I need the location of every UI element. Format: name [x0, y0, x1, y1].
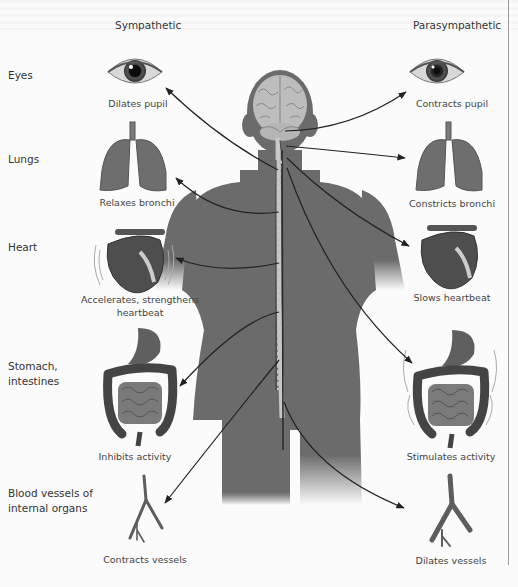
- eye-sympathetic: [108, 59, 162, 83]
- heart-parasympathetic: [421, 228, 477, 289]
- organ-label-vessels: Blood vessels of internal organs: [8, 486, 93, 516]
- effect-sympathetic-heart-line1: Accelerates, strengthens: [75, 293, 205, 306]
- organ-label-stomach: Stomach, intestines: [8, 359, 59, 389]
- effect-sympathetic-heart: Accelerates, strengthens heartbeat: [75, 293, 205, 319]
- organ-label-heart: Heart: [8, 240, 37, 255]
- effect-sympathetic-heart-line2: heartbeat: [75, 306, 205, 319]
- organ-label-lungs: Lungs: [8, 152, 39, 167]
- effect-parasympathetic-stomach: Stimulates activity: [393, 450, 509, 463]
- effect-parasympathetic-eyes: Contracts pupil: [397, 97, 507, 110]
- effect-parasympathetic-vessels: Dilates vessels: [398, 554, 504, 567]
- effect-parasympathetic-lungs: Constricts bronchi: [392, 197, 512, 210]
- vessel-parasympathetic: [432, 476, 470, 546]
- organ-label-eyes: Eyes: [8, 68, 33, 83]
- lungs-sympathetic: [100, 122, 166, 191]
- effect-sympathetic-stomach: Inhibits activity: [80, 450, 190, 463]
- organ-label-stomach-line2: intestines: [8, 374, 59, 389]
- eye-parasympathetic: [410, 59, 464, 83]
- effect-sympathetic-lungs: Relaxes bronchi: [82, 196, 192, 209]
- brain: [253, 75, 307, 141]
- vessel-sympathetic: [130, 476, 162, 542]
- effect-sympathetic-vessels: Contracts vessels: [85, 553, 205, 566]
- digestive-parasympathetic: [403, 330, 496, 448]
- effect-sympathetic-eyes: Dilates pupil: [88, 97, 188, 110]
- organ-label-vessels-line1: Blood vessels of: [8, 486, 93, 501]
- organ-label-vessels-line2: internal organs: [8, 501, 93, 516]
- digestive-sympathetic: [108, 328, 173, 446]
- lungs-parasympathetic: [416, 122, 482, 191]
- effect-parasympathetic-heart: Slows heartbeat: [397, 291, 507, 304]
- organ-label-stomach-line1: Stomach,: [8, 359, 59, 374]
